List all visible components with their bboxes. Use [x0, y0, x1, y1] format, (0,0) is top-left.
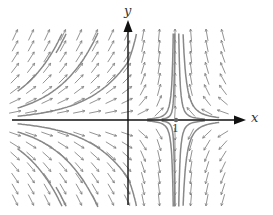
- field-arrow: [12, 173, 19, 183]
- field-arrow: [12, 195, 17, 206]
- field-arrow: [220, 74, 226, 85]
- solution-curve: [147, 34, 173, 120]
- x-axis-label: x: [251, 110, 258, 125]
- field-arrow: [107, 162, 115, 171]
- field-arrow: [74, 86, 84, 93]
- field-arrow: [108, 30, 113, 41]
- field-arrow: [140, 85, 146, 96]
- field-arrow: [138, 109, 149, 114]
- field-arrow: [58, 86, 68, 93]
- field-arrow: [108, 52, 114, 62]
- field-arrow: [91, 75, 99, 84]
- field-arrow: [92, 52, 98, 62]
- field-arrow: [155, 108, 164, 116]
- field-arrow: [11, 162, 19, 171]
- field-arrow: [59, 63, 66, 73]
- field-arrow: [28, 41, 34, 52]
- field-arrow: [156, 129, 162, 139]
- phase-portrait-plot: [0, 0, 273, 215]
- y-axis-label: y: [124, 3, 131, 18]
- field-arrow: [11, 75, 19, 84]
- field-arrow: [26, 86, 36, 93]
- field-arrow: [218, 131, 228, 137]
- field-arrow: [157, 95, 162, 106]
- field-arrow: [90, 98, 101, 103]
- field-arrow: [106, 98, 117, 103]
- field-arrow: [27, 152, 36, 160]
- field-arrow: [44, 173, 51, 183]
- field-arrow: [10, 98, 21, 103]
- field-arrow: [106, 142, 116, 148]
- field-arrow: [218, 97, 227, 105]
- field-arrow: [10, 142, 20, 148]
- field-arrow: [203, 130, 212, 138]
- field-arrow: [44, 184, 50, 194]
- field-arrow: [91, 162, 99, 171]
- field-arrow: [139, 96, 147, 105]
- tick-label-one: 1: [172, 122, 179, 135]
- field-arrow: [28, 52, 34, 62]
- field-arrow: [76, 195, 81, 206]
- field-arrow: [92, 173, 99, 183]
- field-arrow: [141, 151, 146, 162]
- field-arrow: [12, 184, 18, 194]
- field-arrow: [60, 184, 66, 194]
- field-arrow: [11, 63, 18, 73]
- field-arrow: [12, 30, 17, 41]
- field-arrow: [44, 41, 50, 52]
- solution-curve: [183, 122, 219, 205]
- field-arrow: [60, 173, 67, 183]
- field-arrow: [12, 52, 18, 62]
- solution-curve: [18, 132, 98, 207]
- field-arrow: [220, 151, 226, 161]
- field-arrow: [11, 152, 20, 160]
- field-arrow: [12, 41, 18, 52]
- field-arrow: [108, 195, 113, 206]
- field-arrow: [59, 162, 67, 171]
- field-arrow: [59, 75, 67, 84]
- field-arrow: [175, 106, 176, 118]
- field-arrow: [58, 142, 68, 148]
- field-arrow: [76, 41, 82, 52]
- field-arrow: [139, 130, 148, 138]
- field-arrow: [124, 41, 130, 52]
- field-arrow: [92, 184, 98, 194]
- solution-curve: [183, 34, 219, 117]
- solution-curve: [179, 34, 205, 120]
- field-arrow: [76, 30, 81, 41]
- field-arrow: [106, 86, 116, 93]
- field-arrow: [27, 63, 34, 73]
- field-arrow: [108, 184, 114, 194]
- field-arrow: [204, 85, 209, 96]
- field-arrow: [220, 162, 225, 173]
- field-arrow: [108, 41, 114, 52]
- field-arrow: [44, 30, 49, 41]
- field-arrow: [204, 140, 210, 150]
- field-arrow: [91, 63, 98, 73]
- y-axis-arrow-icon: [124, 20, 133, 32]
- field-arrow: [107, 63, 114, 73]
- field-arrow: [28, 195, 33, 206]
- solution-curve: [18, 34, 62, 91]
- field-arrow: [123, 75, 131, 84]
- field-arrow: [28, 30, 33, 41]
- field-arrow: [219, 85, 226, 95]
- field-arrow: [122, 142, 132, 148]
- field-arrow: [75, 152, 84, 160]
- field-arrow: [44, 195, 49, 206]
- field-arrow: [28, 173, 35, 183]
- field-arrow: [42, 98, 53, 103]
- field-arrow: [140, 140, 146, 150]
- field-arrow: [60, 52, 66, 62]
- field-arrow: [74, 142, 84, 148]
- field-arrow: [43, 75, 51, 84]
- field-arrow: [26, 142, 36, 148]
- field-arrow: [203, 96, 210, 105]
- field-arrow: [43, 162, 51, 171]
- field-arrow: [108, 173, 115, 183]
- field-arrow: [124, 184, 130, 194]
- solution-curve: [18, 149, 62, 207]
- field-arrow: [76, 184, 82, 194]
- field-arrow: [221, 62, 226, 73]
- field-arrow: [76, 52, 82, 62]
